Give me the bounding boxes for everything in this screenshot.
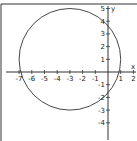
x-tick-label: 2 [131, 75, 135, 83]
x-tick-label: -6 [28, 75, 36, 83]
y-tick-label: 1 [101, 56, 105, 64]
x-tick-label: -5 [41, 75, 48, 83]
axes: -7-6-5-4-3-2-11254321-1-2-3-4 [6, 5, 136, 140]
y-axis-label: y [111, 5, 115, 13]
y-tick-label: 5 [101, 5, 105, 13]
circle-curve [19, 9, 121, 111]
x-tick-label: -4 [54, 75, 62, 83]
x-axis-label: x [131, 63, 135, 71]
y-tick-label: 3 [101, 30, 105, 38]
y-tick-label: -1 [98, 81, 105, 89]
x-tick-label: 1 [118, 75, 122, 83]
circle-graph: -7-6-5-4-3-2-11254321-1-2-3-4 x y [0, 0, 137, 141]
y-tick-label: -4 [98, 119, 106, 127]
y-tick-label: -3 [98, 107, 105, 115]
y-tick-label: 2 [101, 43, 105, 51]
x-tick-label: -3 [66, 75, 73, 83]
x-tick-label: -2 [79, 75, 86, 83]
